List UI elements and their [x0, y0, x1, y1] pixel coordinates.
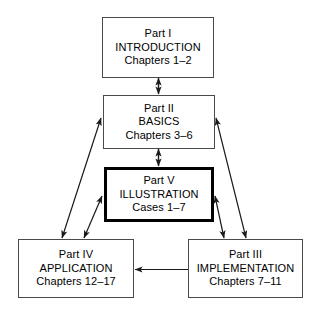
- node-part-label: Part I: [145, 27, 172, 41]
- node-part-name: BASICS: [139, 115, 180, 129]
- node-part-label: Part III: [229, 248, 262, 262]
- node-part-name: INTRODUCTION: [115, 41, 201, 55]
- diagram-page: Part I INTRODUCTION Chapters 1–2 Part II…: [0, 0, 317, 314]
- node-part-name: APPLICATION: [39, 262, 112, 276]
- node-part-range: Chapters 3–6: [125, 129, 192, 143]
- connector-part-ii-part-iv: [62, 118, 101, 238]
- node-part-i[interactable]: Part I INTRODUCTION Chapters 1–2: [102, 17, 214, 78]
- node-part-label: Part IV: [59, 248, 93, 262]
- node-part-range: Chapters 1–2: [124, 54, 191, 68]
- node-part-iv[interactable]: Part IV APPLICATION Chapters 12–17: [18, 239, 134, 298]
- node-part-label: Part II: [144, 102, 174, 116]
- node-part-range: Chapters 12–17: [36, 275, 116, 289]
- node-part-name: IMPLEMENTATION: [197, 262, 295, 276]
- node-part-range: Chapters 7–11: [209, 275, 282, 289]
- node-part-iii[interactable]: Part III IMPLEMENTATION Chapters 7–11: [188, 239, 303, 298]
- node-part-ii[interactable]: Part II BASICS Chapters 3–6: [103, 95, 215, 149]
- node-part-name: ILLUSTRATION: [119, 188, 198, 202]
- node-part-label: Part V: [143, 174, 174, 188]
- node-part-range: Cases 1–7: [132, 201, 186, 215]
- node-part-v[interactable]: Part V ILLUSTRATION Cases 1–7: [104, 167, 214, 222]
- connector-part-v-part-iv: [84, 196, 102, 238]
- connector-part-v-part-iii: [215, 196, 224, 238]
